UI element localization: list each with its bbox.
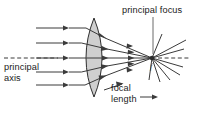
incoming-ray-5-arrowhead <box>63 82 69 87</box>
diverging-ray-4 <box>152 58 180 75</box>
focal-length-label-line1: focal <box>111 83 131 93</box>
focal-length-right-arrowhead <box>152 94 158 99</box>
converging-ray-3-arrowhead <box>128 55 135 60</box>
diverging-ray-2 <box>152 49 184 58</box>
converging-ray-group <box>105 38 152 76</box>
converging-ray-1 <box>105 38 152 58</box>
focal-length-label-line2: length <box>111 94 137 104</box>
principal-axis-label-line1: principal <box>4 62 39 72</box>
ray-inside-lens-4-arrowhead <box>101 64 108 69</box>
principal-focus-point <box>150 56 155 61</box>
converging-ray-1-arrowhead <box>127 44 134 49</box>
incoming-ray-4-arrowhead <box>63 69 69 74</box>
ray-inside-lens-2-arrowhead <box>101 46 109 51</box>
converging-ray-5 <box>105 58 152 76</box>
incoming-ray-2-arrowhead <box>63 40 69 45</box>
lens-diagram-svg: principal focus principal axis focal len… <box>0 0 199 114</box>
diverging-ray-5 <box>152 58 170 80</box>
lens-diagram-container: principal focus principal axis focal len… <box>0 0 199 114</box>
principal-focus-label: principal focus <box>122 5 183 15</box>
incoming-ray-group <box>36 25 69 87</box>
principal-axis-label-line2: axis <box>4 73 21 83</box>
diverging-ray-1 <box>152 40 186 58</box>
converging-ray-5-arrowhead <box>127 67 134 72</box>
incoming-ray-3-arrowhead <box>63 55 69 60</box>
ray-to-lens-group <box>69 28 86 85</box>
diverging-ray-3 <box>152 58 183 67</box>
incoming-ray-1-arrowhead <box>63 25 69 30</box>
